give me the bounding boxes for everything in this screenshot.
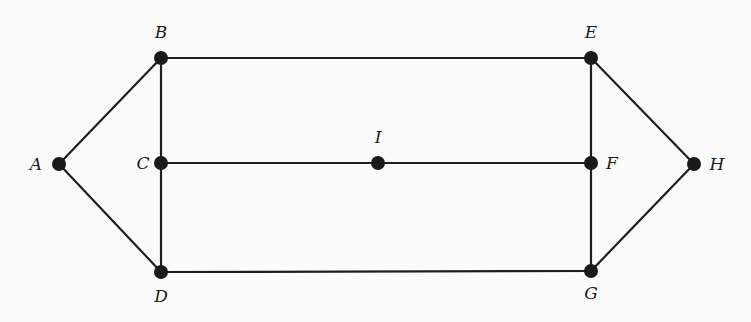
edge-a-d bbox=[59, 164, 161, 272]
node-g bbox=[584, 264, 598, 278]
node-f bbox=[584, 156, 598, 170]
node-c bbox=[154, 156, 168, 170]
edge-d-g bbox=[161, 271, 591, 272]
node-label-a: A bbox=[28, 154, 42, 174]
node-i bbox=[371, 156, 385, 170]
node-d bbox=[154, 265, 168, 279]
node-label-d: D bbox=[153, 286, 168, 306]
node-label-i: I bbox=[374, 127, 382, 147]
node-label-c: C bbox=[136, 153, 149, 173]
edge-e-h bbox=[591, 58, 694, 164]
node-label-g: G bbox=[584, 283, 598, 303]
node-b bbox=[154, 51, 168, 65]
node-a bbox=[52, 157, 66, 171]
node-label-f: F bbox=[605, 153, 619, 173]
node-label-b: B bbox=[154, 22, 168, 42]
node-label-e: E bbox=[584, 22, 598, 42]
node-e bbox=[584, 51, 598, 65]
node-label-h: H bbox=[709, 154, 726, 174]
node-h bbox=[687, 157, 701, 171]
edge-g-h bbox=[591, 164, 694, 271]
graph-diagram: ABCDEFGHI bbox=[0, 0, 751, 322]
edge-a-b bbox=[59, 58, 161, 164]
